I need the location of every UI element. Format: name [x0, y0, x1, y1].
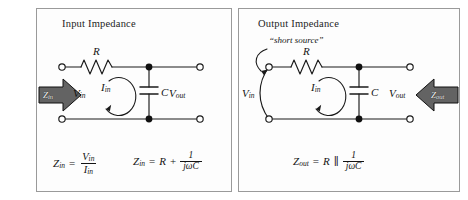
resistor-symbol [81, 60, 112, 74]
terminal-output-bottom [197, 116, 203, 122]
label-iin: Iin [101, 81, 111, 94]
terminal-input-top [59, 64, 65, 70]
label-vout: Vout [169, 87, 185, 100]
label-vin: Vin [73, 87, 86, 100]
label-vin: Vin [242, 87, 255, 100]
formula-zout-expression: Zout = R ∥ 1 jωC [293, 151, 364, 172]
label-resistor-R: R [303, 45, 310, 57]
block-arrow-zin-text: Zin [43, 90, 53, 100]
junction-node-bottom [356, 116, 363, 123]
terminal-output-bottom [407, 116, 413, 122]
junction-node-top [356, 64, 363, 71]
junction-node-top [146, 64, 153, 71]
formula-zin-ratio: Zin = Vin Iin [53, 151, 97, 176]
label-resistor-R: R [93, 45, 100, 57]
terminal-output-top [197, 64, 203, 70]
block-arrow-zout-text: Zout [431, 90, 444, 100]
resistor-symbol [291, 60, 322, 74]
terminal-input-bottom [59, 116, 65, 122]
label-capacitor-C: C [371, 86, 378, 98]
panel-input-impedance: Input Impedance [36, 8, 232, 192]
terminal-input-top [266, 64, 272, 70]
short-source-wire [260, 67, 269, 119]
formula-zin-expression: Zin = R + 1 jωC [133, 151, 202, 172]
terminal-input-bottom [266, 116, 272, 122]
junction-node-bottom [146, 116, 153, 123]
label-capacitor-C: C [161, 86, 168, 98]
figure-root: Input Impedance [0, 0, 468, 200]
panel-output-impedance: Output Impedance “short source” [238, 8, 460, 192]
label-vout: Vout [389, 87, 405, 100]
label-iin: Iin [311, 81, 321, 94]
terminal-output-top [407, 64, 413, 70]
